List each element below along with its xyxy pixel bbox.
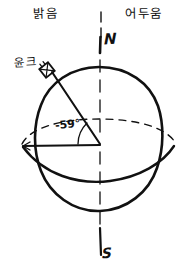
label-north-pole: N [104, 32, 117, 48]
polar-axis-south-stub [100, 228, 101, 255]
label-south-pole: S [102, 245, 112, 260]
diagram-canvas: 밝음 어두움 윤크 N S -59° [0, 0, 196, 276]
label-angle: -59° [54, 118, 80, 132]
equator-dashed-back [22, 119, 176, 144]
horizontal-radius-line [23, 145, 100, 146]
terminator-arc [23, 146, 174, 182]
label-bright-side: 밝음 [33, 8, 58, 21]
label-site: 윤크 [14, 56, 38, 69]
label-dark-side: 어두움 [125, 8, 163, 21]
antenna-square-icon [37, 60, 55, 78]
site-radius-line [52, 72, 100, 144]
sphere-outline [35, 67, 162, 211]
sphere-diagram [0, 0, 196, 276]
polar-axis-north-stub [100, 37, 101, 53]
